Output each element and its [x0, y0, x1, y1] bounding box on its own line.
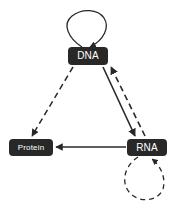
node-protein[interactable]: Protein — [9, 139, 53, 156]
edge-dna-to-rna — [103, 67, 135, 136]
node-rna[interactable]: RNA — [127, 139, 167, 156]
node-dna-label: DNA — [77, 51, 99, 61]
edge-rna-self-loop — [125, 157, 164, 200]
central-dogma-diagram: DNA Protein RNA — [0, 0, 181, 211]
node-dna[interactable]: DNA — [68, 47, 108, 65]
node-rna-label: RNA — [136, 143, 158, 153]
edge-layer — [0, 0, 181, 211]
edge-rna-to-dna — [111, 67, 145, 136]
edge-dna-to-protein — [32, 67, 73, 136]
node-protein-label: Protein — [18, 144, 45, 152]
edge-dna-self-loop — [67, 11, 106, 47]
